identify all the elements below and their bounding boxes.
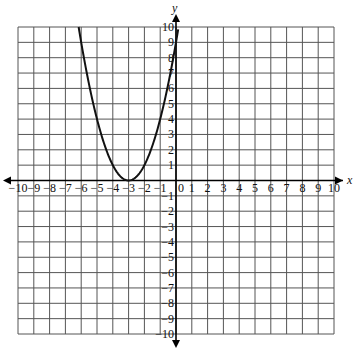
svg-text:3: 3	[168, 127, 174, 141]
svg-text:−4: −4	[161, 235, 174, 249]
svg-text:1: 1	[189, 181, 195, 195]
y-axis-label: y	[171, 1, 178, 15]
svg-text:−8: −8	[43, 181, 56, 195]
svg-text:−7: −7	[161, 281, 174, 295]
svg-text:7: 7	[284, 181, 290, 195]
svg-text:−2: −2	[161, 204, 174, 218]
svg-text:−5: −5	[91, 181, 104, 195]
svg-text:9: 9	[315, 181, 321, 195]
svg-text:9: 9	[168, 35, 174, 49]
svg-text:−9: −9	[27, 181, 40, 195]
svg-text:−2: −2	[138, 181, 151, 195]
svg-text:8: 8	[299, 181, 305, 195]
svg-text:3: 3	[220, 181, 226, 195]
svg-text:−1: −1	[161, 189, 174, 203]
svg-text:2: 2	[205, 181, 211, 195]
svg-text:−4: −4	[106, 181, 119, 195]
svg-text:−7: −7	[59, 181, 72, 195]
svg-text:−6: −6	[161, 266, 174, 280]
svg-text:4: 4	[236, 181, 242, 195]
svg-text:−3: −3	[161, 220, 174, 234]
svg-text:−10: −10	[155, 327, 174, 341]
x-axis-label: x	[346, 173, 353, 187]
svg-text:10: 10	[328, 181, 340, 195]
svg-text:−3: −3	[122, 181, 135, 195]
svg-text:−8: −8	[161, 296, 174, 310]
x-tick-labels: −10−9−8−7−6−5−4−3−2−1012345678910	[9, 181, 340, 195]
svg-text:10: 10	[162, 20, 174, 34]
svg-text:5: 5	[168, 97, 174, 111]
coordinate-plane: −10−9−8−7−6−5−4−3−2−1012345678910 −10−9−…	[0, 0, 357, 351]
svg-text:4: 4	[168, 112, 174, 126]
svg-text:0: 0	[178, 181, 184, 195]
svg-text:1: 1	[168, 158, 174, 172]
svg-text:−6: −6	[75, 181, 88, 195]
svg-text:6: 6	[268, 181, 274, 195]
svg-text:−9: −9	[161, 312, 174, 326]
svg-text:2: 2	[168, 143, 174, 157]
svg-text:5: 5	[252, 181, 258, 195]
svg-text:−10: −10	[9, 181, 28, 195]
svg-text:−5: −5	[161, 250, 174, 264]
